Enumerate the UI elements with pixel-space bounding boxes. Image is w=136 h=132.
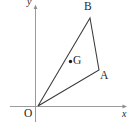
centroid-point-g	[69, 60, 72, 63]
y-axis-arrowhead	[34, 5, 38, 10]
origin-label-o: O	[24, 108, 32, 120]
vertex-label-a: A	[100, 70, 108, 82]
triangle-oab	[38, 18, 99, 106]
x-axis-label: x	[122, 109, 126, 119]
y-axis-label: y	[27, 0, 31, 7]
figure-canvas	[0, 0, 136, 132]
geometry-figure: B A O G x y	[0, 0, 136, 132]
centroid-label-g: G	[73, 55, 81, 67]
vertex-label-b: B	[84, 1, 92, 13]
